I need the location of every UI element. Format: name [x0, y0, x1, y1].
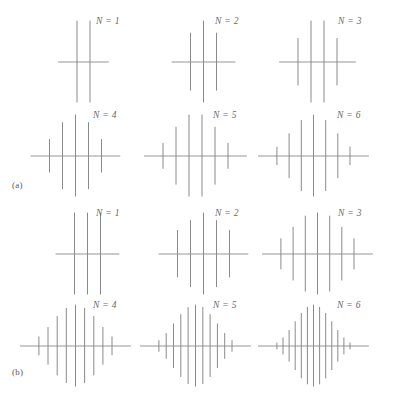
n-label-panel-a-n1: N = 1 [96, 16, 120, 26]
n-label-panel-b-n1: N = 1 [96, 208, 120, 218]
n-label-panel-b-n5: N = 5 [213, 300, 237, 310]
n-label-panel-a-n5: N = 5 [213, 110, 237, 120]
splitting-pattern-figure: N = 1N = 2N = 3N = 4N = 5N = 6 N = 1N = … [0, 0, 395, 398]
spectrum-panel-b-n4 [20, 300, 138, 392]
n-label-panel-b-n2: N = 2 [215, 208, 239, 218]
spectrum-panel-a-n5 [140, 110, 258, 202]
spectrum-panel-b-n3 [262, 208, 380, 300]
n-label-panel-a-n3: N = 3 [338, 16, 362, 26]
n-label-panel-a-n6: N = 6 [337, 110, 361, 120]
n-label-panel-a-n4: N = 4 [93, 110, 117, 120]
spectrum-panel-a-n4 [20, 110, 138, 202]
spectrum-panel-a-n1 [28, 16, 146, 108]
n-label-panel-a-n2: N = 2 [215, 16, 239, 26]
panel-a: N = 1N = 2N = 3N = 4N = 5N = 6 [0, 0, 395, 200]
n-label-panel-b-n4: N = 4 [93, 300, 117, 310]
panel-b: N = 1N = 2N = 3N = 4N = 5N = 6 [0, 200, 395, 398]
spectrum-panel-b-n2 [148, 208, 266, 300]
n-label-panel-b-n3: N = 3 [338, 208, 362, 218]
spectrum-panel-a-n6 [258, 110, 376, 202]
panel-b-label: (b) [12, 367, 23, 377]
spectrum-panel-b-n5 [140, 300, 258, 392]
n-label-panel-b-n6: N = 6 [337, 300, 361, 310]
spectrum-panel-a-n2 [148, 16, 266, 108]
spectrum-panel-a-n3 [262, 16, 380, 108]
spectrum-panel-b-n6 [258, 300, 376, 392]
panel-a-label: (a) [12, 180, 23, 190]
spectrum-panel-b-n1 [32, 208, 150, 300]
